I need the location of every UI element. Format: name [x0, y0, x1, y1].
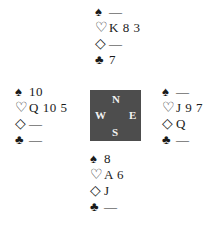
north-hearts: ♡K 8 3 — [95, 20, 140, 36]
north-diamonds: ◇— — [95, 36, 140, 52]
north-spades: ♠— — [95, 4, 140, 20]
compass-west-label: W — [95, 110, 106, 121]
south-hand: ♠8 ♡A 6 ◇J ♣— — [90, 151, 124, 215]
spade-icon: ♠ — [15, 84, 29, 100]
north-clubs: ♣7 — [95, 52, 140, 68]
east-hand: ♠— ♡J 9 7 ◇Q ♣— — [162, 84, 203, 148]
heart-icon: ♡ — [90, 167, 104, 183]
diamond-icon: ◇ — [15, 116, 29, 132]
club-icon: ♣ — [95, 52, 109, 68]
club-icon: ♣ — [90, 199, 104, 215]
heart-icon: ♡ — [15, 100, 29, 116]
compass-south-label: S — [112, 127, 118, 138]
west-spades: ♠10 — [15, 84, 67, 100]
east-spades: ♠— — [162, 84, 203, 100]
south-diamonds: ◇J — [90, 183, 124, 199]
spade-icon: ♠ — [90, 151, 104, 167]
diamond-icon: ◇ — [95, 36, 109, 52]
east-diamonds: ◇Q — [162, 116, 203, 132]
south-spades: ♠8 — [90, 151, 124, 167]
club-icon: ♣ — [15, 132, 29, 148]
west-hearts: ♡Q 10 5 — [15, 100, 67, 116]
heart-icon: ♡ — [162, 100, 176, 116]
compass-north-label: N — [112, 94, 120, 105]
compass-box: N W E S — [90, 90, 141, 141]
north-hand: ♠— ♡K 8 3 ◇— ♣7 — [95, 4, 140, 68]
west-hand: ♠10 ♡Q 10 5 ◇— ♣— — [15, 84, 67, 148]
south-clubs: ♣— — [90, 199, 124, 215]
west-clubs: ♣— — [15, 132, 67, 148]
south-hearts: ♡A 6 — [90, 167, 124, 183]
compass-east-label: E — [129, 110, 136, 121]
west-diamonds: ◇— — [15, 116, 67, 132]
club-icon: ♣ — [162, 132, 176, 148]
east-clubs: ♣— — [162, 132, 203, 148]
diamond-icon: ◇ — [162, 116, 176, 132]
spade-icon: ♠ — [95, 4, 109, 20]
diamond-icon: ◇ — [90, 183, 104, 199]
heart-icon: ♡ — [95, 20, 109, 36]
spade-icon: ♠ — [162, 84, 176, 100]
east-hearts: ♡J 9 7 — [162, 100, 203, 116]
